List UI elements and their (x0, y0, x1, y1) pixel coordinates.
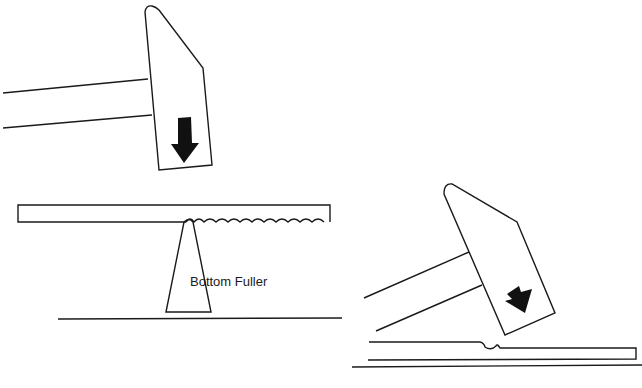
hammer-2 (364, 184, 555, 335)
anvil-line-1 (58, 318, 342, 319)
hammer-2-handle-bottom (376, 285, 482, 331)
hammer-1-handle-bottom (3, 115, 152, 128)
hammer-2-handle-top (364, 252, 469, 298)
fullering-diagram (0, 0, 642, 388)
hammer-2-head (444, 184, 555, 335)
fuller-marks (186, 219, 324, 222)
anvil-line-2 (352, 365, 642, 367)
hammer-1-handle-top (3, 79, 148, 93)
stock-1 (18, 205, 330, 222)
bottom-fuller-outline (166, 220, 211, 313)
bottom-fuller (166, 220, 211, 313)
stock-2-outline (368, 342, 636, 360)
bottom-fuller-label: Bottom Fuller (190, 274, 267, 289)
stock-2 (368, 342, 636, 360)
